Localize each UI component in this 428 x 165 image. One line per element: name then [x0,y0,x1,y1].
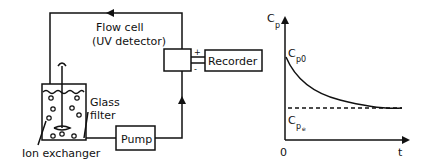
arrows [106,9,410,144]
plus-sign: + [194,48,201,57]
ion-exchanger-beads [47,96,81,138]
y-axis-label: C [267,12,275,25]
x-axis-arrow-icon [402,136,410,144]
flow-cell-label-1: Flow cell [96,21,144,34]
pump-label: Pump [121,133,152,146]
cpe-label: C [288,114,296,127]
origin-label: 0 [280,146,287,159]
flow-tube-right [155,71,182,138]
flow-cell-label-2: (UV detector) [92,35,166,48]
y-axis-label-sub: p [275,21,280,30]
liquid-surface [43,91,84,94]
arrow-left-icon [106,9,114,17]
arrow-up-icon [178,96,186,104]
stirrer-rotation-icon [58,63,66,66]
glass-filter-label-2: filter [90,109,116,122]
flow-cell-box [164,49,191,71]
cpe-label-subsub: e [302,125,306,132]
cpe-label-sub: p [296,122,301,131]
recorder-label: Recorder [208,55,258,68]
diagram-canvas: Flow cell (UV detector) Recorder + - Gla… [0,0,428,165]
cp0-label: C [288,47,296,60]
ion-exchanger-label: Ion exchanger [22,147,101,160]
cp0-label-sub: p0 [296,55,306,64]
decay-curve [286,57,402,108]
glass-filter-label-1: Glass [90,96,120,109]
x-axis-label: t [398,146,403,159]
minus-sign: - [194,65,197,74]
y-axis-arrow-icon [281,16,289,24]
